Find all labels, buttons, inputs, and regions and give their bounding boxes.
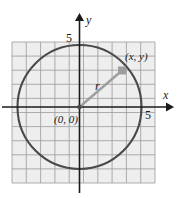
origin-point-marker [77,105,82,110]
point-on-circle-marker [118,67,126,75]
origin-label: (0, 0) [54,114,78,125]
circle-figure: y x 5 5 (x, y) r (0, 0) [0,0,182,198]
x-axis-arrow-icon [166,103,174,112]
point-on-circle-label: (x, y) [125,51,148,62]
x-axis-label: x [163,89,168,101]
y-axis-label: y [86,14,91,26]
radius-label: r [95,80,100,92]
y-axis-arrow-icon [75,13,84,21]
coordinate-plane-graphic [0,0,182,198]
y-axis-tick-label-5: 5 [66,32,72,44]
x-axis-tick-label-5: 5 [145,109,151,121]
